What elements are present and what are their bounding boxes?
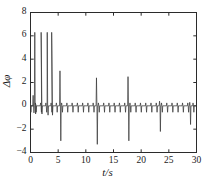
data-series-line bbox=[31, 32, 197, 144]
y-tick-label: 8 bbox=[5, 6, 27, 16]
axes-frame bbox=[31, 13, 197, 153]
plot-frame bbox=[31, 13, 197, 153]
axis-ticks bbox=[31, 13, 197, 153]
y-tick-label: 0 bbox=[5, 99, 27, 109]
y-tick-label: −2 bbox=[5, 123, 27, 133]
x-tick-label: 25 bbox=[157, 155, 181, 165]
x-tick-label: 20 bbox=[129, 155, 153, 165]
y-tick-label: 2 bbox=[5, 76, 27, 86]
x-tick-label: 5 bbox=[46, 155, 70, 165]
series-phase-difference bbox=[31, 32, 197, 144]
x-tick-label: 10 bbox=[74, 155, 98, 165]
x-tick-label: 30 bbox=[185, 155, 209, 165]
y-tick-label: 6 bbox=[5, 29, 27, 39]
x-axis-label-text: t/s bbox=[0, 166, 215, 178]
y-tick-label: 4 bbox=[5, 53, 27, 63]
x-tick-label: 15 bbox=[102, 155, 126, 165]
figure-container: Δφ t/s 05101520253086420−2−4 bbox=[0, 0, 215, 189]
y-tick-label: −4 bbox=[5, 146, 27, 156]
x-tick-label: 0 bbox=[19, 155, 43, 165]
